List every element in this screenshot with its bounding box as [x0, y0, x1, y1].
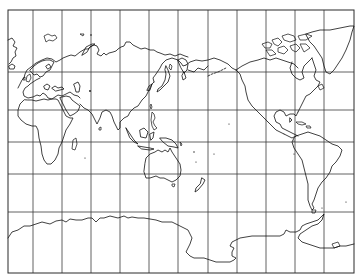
tahiti [293, 153, 294, 154]
alaska [186, 58, 236, 70]
canadian-arctic-archipelago [262, 34, 312, 56]
south-georgia [345, 201, 346, 202]
labrador-east-coast [298, 58, 320, 112]
mauritius [84, 157, 85, 158]
alaska-southwest [188, 66, 208, 72]
africa [18, 99, 73, 164]
sakhalin [169, 64, 172, 70]
tierra-del-fuego [312, 210, 316, 213]
taiwan [150, 104, 152, 109]
hawaii [228, 123, 229, 124]
australia [144, 148, 181, 182]
franz-josef-land [80, 34, 84, 36]
eurasia-north-coast [18, 42, 188, 88]
canada-north-coast [236, 58, 298, 70]
iceland [9, 64, 15, 69]
svalbard [44, 34, 57, 42]
greenland [306, 26, 354, 74]
us-east-gulf-coast [274, 110, 298, 136]
madagascar [72, 138, 77, 150]
south-america [292, 132, 342, 210]
solomon-islands [180, 142, 182, 146]
tasmania [172, 184, 175, 187]
italy-balkans [44, 84, 50, 90]
bering-island [182, 72, 186, 80]
sri-lanka [99, 127, 101, 130]
berkner-island [332, 242, 340, 248]
new-guinea [160, 138, 178, 148]
florida [290, 118, 292, 122]
philippines [151, 112, 157, 130]
islet [90, 34, 92, 36]
greenland-west-edge [8, 38, 17, 69]
new-zealand [195, 178, 205, 192]
graticule [8, 10, 354, 273]
fiji [193, 151, 194, 152]
borneo [140, 128, 148, 138]
caspian-sea [74, 82, 80, 92]
java-lesser-sunda [138, 146, 154, 150]
samoa [213, 153, 214, 154]
falkland-islands [321, 207, 322, 208]
world-map [0, 0, 362, 280]
sulawesi [150, 132, 154, 140]
north-america-west-coast [236, 70, 268, 122]
finland-gulf [46, 64, 51, 69]
antarctica [8, 214, 354, 262]
arabia [60, 96, 80, 116]
galapagos [293, 140, 294, 141]
hudson-bay [290, 58, 312, 80]
map-canvas [0, 0, 362, 280]
aral-sea [89, 90, 91, 92]
map-frame [8, 10, 354, 273]
hispaniola [306, 126, 311, 128]
scandinavia [30, 60, 54, 77]
western-europe-mediterranean [23, 78, 80, 99]
cuba [296, 122, 306, 125]
new-caledonia [195, 161, 196, 162]
great-britain [26, 74, 31, 82]
